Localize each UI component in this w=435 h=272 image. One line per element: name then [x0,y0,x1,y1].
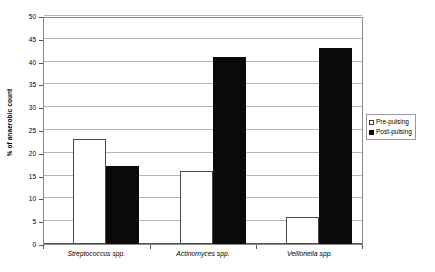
legend: Pre-pulsingPost-pulsing [366,114,416,140]
category-separator-tick [362,245,363,249]
y-axis-tick-label: 5 [32,219,36,226]
gridline [44,15,362,16]
y-axis-tick-label: 30 [29,105,36,112]
bars-layer [44,18,362,244]
bar-chart: % of anaerobic count 0510152025303540455… [0,0,435,272]
y-axis-tick-label: 15 [29,173,36,180]
y-axis-tick-label: 25 [29,128,36,135]
y-axis-ticks: 05101520253035404550 [0,17,43,245]
x-axis-category-label: Actinomyces spp. [176,250,229,257]
legend-item: Post-pulsing [369,127,412,137]
x-axis-category-label: Veillonella spp. [287,250,332,257]
plot-area [43,17,363,245]
bar [180,171,213,244]
y-axis-tick-label: 40 [29,59,36,66]
x-axis-category-labels: Streptococcus spp.Actinomyces spp.Veillo… [43,250,363,266]
category-separator-tick [256,245,257,249]
category-separator-tick [150,245,151,249]
y-axis-tick-label: 0 [32,242,36,249]
bar [73,139,106,244]
category-separator-tick [43,245,44,249]
y-axis-tick-label: 45 [29,37,36,44]
legend-item-label: Post-pulsing [376,129,412,136]
hollow-square-swatch [369,120,374,125]
bar [213,57,246,244]
y-axis-tick-label: 35 [29,82,36,89]
bar [319,48,352,244]
filled-square-swatch [369,130,374,135]
legend-item: Pre-pulsing [369,117,412,127]
y-axis-tick-label: 20 [29,151,36,158]
legend-item-label: Pre-pulsing [376,119,409,126]
x-axis-category-label: Streptococcus spp. [67,250,125,257]
bar [106,166,139,244]
y-axis-tick-label: 50 [29,14,36,21]
bar [286,217,319,244]
y-axis-tick-label: 10 [29,196,36,203]
